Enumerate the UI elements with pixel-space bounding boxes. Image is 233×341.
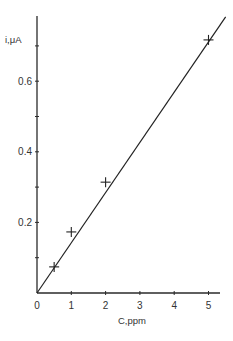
x-tick-label: 0: [34, 300, 40, 311]
calibration-chart: 0.20.40.6 012345 i,μA C,ppm: [0, 0, 233, 341]
x-axis-label: C,ppm: [118, 315, 146, 326]
x-tick-label: 4: [171, 300, 177, 311]
y-tick-label: 0.2: [18, 217, 32, 228]
data-point-plus-marker: [66, 227, 76, 237]
y-ticks: 0.20.40.6: [18, 46, 39, 258]
y-tick-label: 0.4: [18, 146, 32, 157]
data-point-plus-marker: [101, 177, 111, 187]
x-tick-label: 5: [206, 300, 212, 311]
y-axis-label: i,μA: [5, 34, 22, 45]
axes: [37, 16, 220, 293]
x-tick-label: 2: [103, 300, 109, 311]
fit-line: [37, 17, 226, 293]
x-tick-label: 1: [69, 300, 75, 311]
data-series: [37, 17, 226, 293]
x-tick-label: 3: [137, 300, 143, 311]
y-tick-label: 0.6: [18, 76, 32, 87]
x-ticks: 012345: [34, 291, 212, 311]
